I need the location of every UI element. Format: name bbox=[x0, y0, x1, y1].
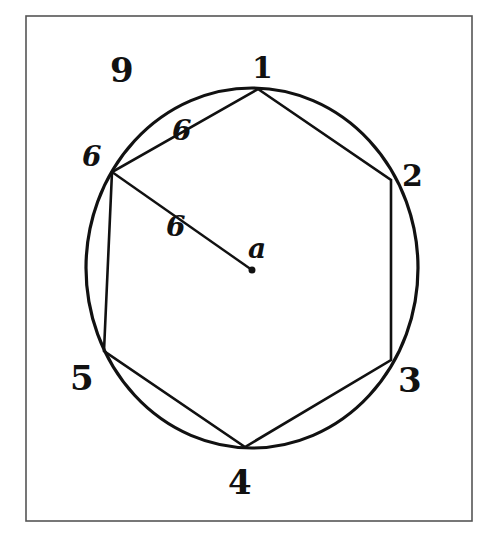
center-point bbox=[249, 267, 256, 274]
vertex-4-label: 4 bbox=[228, 462, 252, 502]
figure-number-label: 9 bbox=[110, 50, 134, 90]
vertex-2-label: 2 bbox=[402, 158, 423, 193]
vertex-1-label: 1 bbox=[252, 50, 273, 85]
center-label: a bbox=[248, 232, 266, 265]
hexagon-inscribed-in-circle-figure: 9 1 2 3 4 5 6 6 6 a bbox=[0, 0, 491, 541]
vertex-6-label: 6 bbox=[82, 140, 101, 173]
radius-length-label: 6 bbox=[166, 210, 185, 243]
vertex-3-label: 3 bbox=[398, 360, 422, 400]
chord-length-label: 6 bbox=[172, 114, 191, 147]
vertex-5-label: 5 bbox=[70, 358, 94, 398]
